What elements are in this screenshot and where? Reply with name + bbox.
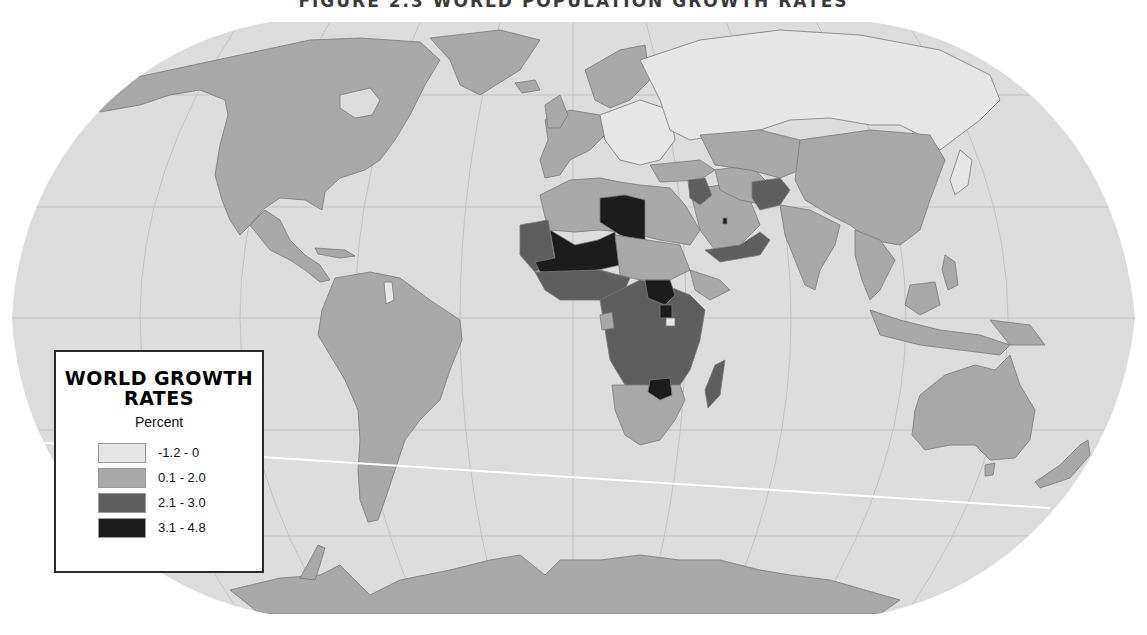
region-lake-victoria <box>666 318 675 326</box>
legend-label: 2.1 - 3.0 <box>158 495 206 510</box>
legend: WORLD GROWTH RATES Percent -1.2 - 0 0.1 … <box>54 350 264 573</box>
legend-title: WORLD GROWTH RATES <box>56 368 262 408</box>
legend-swatch <box>98 468 146 488</box>
legend-label: 0.1 - 2.0 <box>158 470 206 485</box>
region-tasmania <box>985 463 995 476</box>
legend-item: -1.2 - 0 <box>98 440 262 465</box>
region-qatar <box>723 218 727 224</box>
legend-label: 3.1 - 4.8 <box>158 520 206 535</box>
legend-item: 3.1 - 4.8 <box>98 515 262 540</box>
legend-swatch <box>98 493 146 513</box>
legend-item: 0.1 - 2.0 <box>98 465 262 490</box>
legend-title-line1: WORLD GROWTH <box>56 368 262 388</box>
legend-label: -1.2 - 0 <box>158 445 199 460</box>
region-uganda <box>660 305 672 318</box>
legend-subtitle: Percent <box>56 414 262 430</box>
legend-title-line2: RATES <box>56 388 262 408</box>
legend-swatch <box>98 518 146 538</box>
region-guyana <box>384 282 394 304</box>
legend-swatch <box>98 443 146 463</box>
legend-item: 2.1 - 3.0 <box>98 490 262 515</box>
region-gabon <box>600 312 614 330</box>
